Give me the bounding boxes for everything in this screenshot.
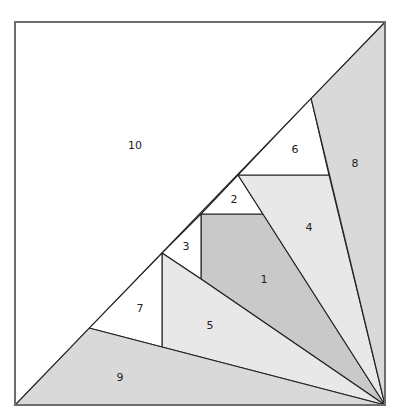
piece-label-10: 10	[128, 139, 142, 152]
piece-label-5: 5	[207, 319, 214, 332]
piece-label-7: 7	[137, 302, 144, 315]
piece-label-3: 3	[183, 240, 190, 253]
piece-label-1: 1	[261, 273, 268, 286]
piece-label-6: 6	[292, 143, 299, 156]
pieces-layer	[15, 22, 385, 405]
paper-piecing-diagram: 12345678910	[0, 0, 401, 415]
piece-label-4: 4	[306, 221, 313, 234]
piece-label-8: 8	[352, 157, 359, 170]
piece-label-9: 9	[117, 371, 124, 384]
piece-label-2: 2	[231, 193, 238, 206]
